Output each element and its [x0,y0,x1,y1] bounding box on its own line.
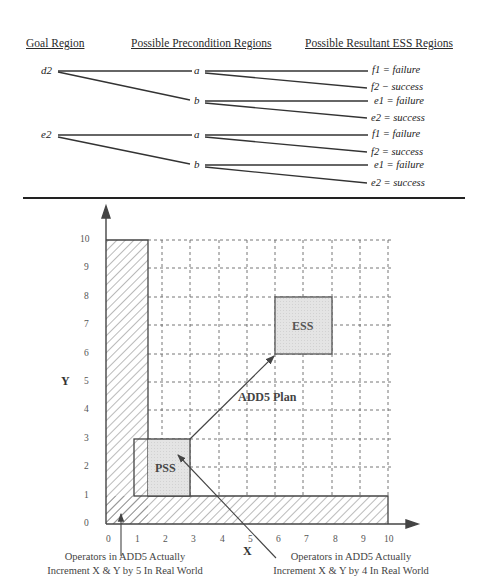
x-axis-label: X [243,544,252,559]
y-axis-label: Y [61,374,70,389]
y-tick: 10 [80,234,90,244]
y-tick: 6 [84,348,89,358]
y-tick: 1 [84,490,89,500]
note-right-line1: Operators in ADD5 Actually [262,550,440,564]
y-tick: 7 [84,319,89,329]
state-space-plot [0,0,479,587]
x-tick: 4 [220,534,225,544]
pss-label: PSS [155,461,176,476]
x-tick: 3 [191,534,196,544]
y-tick: 2 [84,461,89,471]
plan-label: ADD5 Plan [238,390,296,405]
x-tick: 8 [333,534,338,544]
x-tick: 7 [304,534,309,544]
y-tick: 9 [84,262,89,272]
x-tick: 6 [276,534,281,544]
x-tick: 5 [248,534,253,544]
x-tick: 1 [135,534,140,544]
y-tick: 0 [84,518,89,528]
x-tick: 0 [106,534,111,544]
x-tick: 10 [384,534,394,544]
y-tick: 3 [84,433,89,443]
note-left-line1: Operators in ADD5 Actually [40,550,210,564]
y-tick: 5 [84,376,89,386]
note-right: Operators in ADD5 Actually Increment X &… [262,550,440,578]
x-tick: 2 [163,534,168,544]
y-tick: 8 [84,291,89,301]
note-left: Operators in ADD5 Actually Increment X &… [40,550,210,578]
y-tick: 4 [84,404,89,414]
ess-label: ESS [292,319,313,334]
note-left-line2: Increment X & Y by 5 In Real World [40,564,210,578]
note-right-line2: Increment X & Y by 4 In Real World [262,564,440,578]
x-tick: 9 [361,534,366,544]
